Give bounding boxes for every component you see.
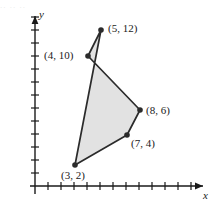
vertex-dot [85,53,91,59]
coordinate-plane-figure: .. .. .. (5, 12) (4, 10) (8, 6) (7, 4) (… [0,0,213,209]
y-axis-label: y [39,9,44,20]
x-axis-arrow-icon [195,183,203,190]
vertex-dot [72,162,78,168]
vertex-label-4-10: (4, 10) [44,50,73,61]
vertex-dot [124,132,130,138]
vertex-dot [137,107,143,113]
plot-canvas [0,0,213,209]
vertex-label-3-2: (3, 2) [61,170,85,181]
vertex-label-7-4: (7, 4) [131,138,155,149]
x-axis-label: x [203,190,208,201]
vertex-label-5-12: (5, 12) [108,23,137,34]
vertex-dot [98,27,104,33]
vertex-label-8-6: (8, 6) [146,105,170,116]
